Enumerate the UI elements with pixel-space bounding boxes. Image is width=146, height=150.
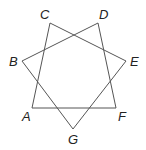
edge-b-d [22,23,98,61]
vertex-label-f: F [118,109,127,124]
vertex-label-c: C [40,7,50,22]
vertex-label-e: E [130,54,139,69]
edge-d-f [98,23,116,108]
vertex-label-g: G [68,132,78,147]
labels-group: ABCDEFG [9,7,139,147]
vertex-label-b: B [9,54,18,69]
vertex-label-d: D [99,7,108,22]
heptagram-diagram: ABCDEFG [0,0,146,150]
edge-c-e [50,23,126,61]
edges-group [22,23,126,129]
vertex-label-a: A [21,109,31,124]
